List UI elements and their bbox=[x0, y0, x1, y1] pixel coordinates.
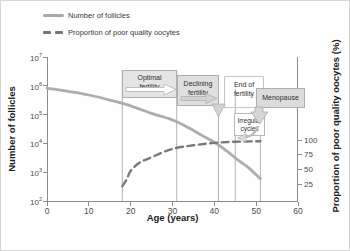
poor-oocyte-proportion-curve bbox=[122, 141, 260, 186]
declining-fertility-label-line2: fertility bbox=[178, 88, 218, 97]
irregular-cycles-label-line1: Irregular bbox=[235, 117, 264, 125]
irregular-cycles-label-line2: cycles bbox=[235, 125, 264, 133]
menopause-label: Menopause bbox=[257, 89, 304, 107]
fertility-chart-figure: Number of follicles Proportion of poor q… bbox=[0, 0, 350, 251]
menopause-box: Menopause bbox=[256, 88, 305, 108]
irregular-cycles-box: Irregular cycles bbox=[234, 113, 265, 136]
declining-fertility-label-line1: Declining bbox=[178, 79, 218, 88]
chart-canvas bbox=[1, 1, 350, 251]
declining-fertility-box: Declining fertility bbox=[177, 75, 219, 106]
optimal-fertility-box: Optimal fertility bbox=[122, 70, 177, 98]
optimal-fertility-label-line1: Optimal bbox=[123, 73, 176, 82]
optimal-fertility-label-line2: fertility bbox=[123, 82, 176, 91]
